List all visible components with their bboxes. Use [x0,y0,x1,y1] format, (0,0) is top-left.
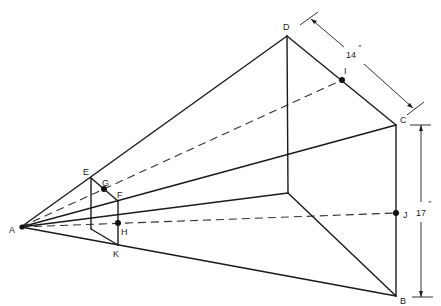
label-k: K [113,249,119,259]
diagram-canvas: A B C D E F G H I J K 14 ″ 17 ″ [0,0,441,306]
point-j-dot [393,210,399,216]
point-labels: A B C D E F G H I J K [9,22,408,306]
projection-rays [21,36,396,296]
dimension-14in: 14 ″ [300,12,424,115]
edge-d-p [287,36,288,193]
label-i: I [344,66,347,76]
dim14-line-upper [311,19,344,47]
perspective-diagram: A B C D E F G H I J K 14 ″ 17 ″ [0,0,441,306]
point-a-dot [19,224,24,229]
dim14-line-lower [364,64,413,108]
point-h-dot [115,220,121,226]
dim17-arrow-bottom [419,291,423,297]
far-plane [287,36,396,296]
label-e: E [83,167,89,177]
label-a: A [9,225,15,235]
dim17-value: 17 [416,208,426,218]
label-j: J [403,210,408,220]
dim14-value: 14 [346,50,356,60]
dim17-unit: ″ [428,199,432,208]
dimension-17in: 17 ″ [410,125,433,297]
label-b: B [400,296,406,306]
label-h: H [121,227,128,237]
dim14-unit: ″ [358,43,362,52]
label-d: D [283,22,290,32]
point-i-dot [339,77,345,83]
label-f: F [117,190,123,200]
label-g: G [102,178,109,188]
ray-a-b [21,227,396,296]
ray-a-c [21,125,396,227]
label-c: C [400,115,407,125]
edge-p-b [288,193,396,296]
marked-points [19,77,399,230]
dim17-arrow-top [419,125,423,131]
